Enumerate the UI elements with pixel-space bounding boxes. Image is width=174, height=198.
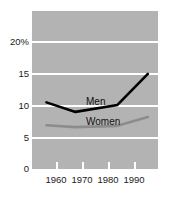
y-tick-label-10: 10	[0, 101, 29, 111]
y-axis: 20% 15 10 5 0	[0, 0, 29, 198]
y-tick-label-0: 0	[0, 164, 29, 174]
x-tick-label-1990: 1990	[114, 174, 154, 185]
y-tick-label-5: 5	[0, 133, 29, 143]
plot-area	[32, 11, 158, 169]
series-plot	[32, 11, 158, 169]
series-label-men: Men	[86, 96, 105, 107]
chart-container: 20% 15 10 5 0 Men Women 1960 1970 1980 1…	[0, 0, 174, 198]
y-tick-label-20: 20%	[0, 37, 29, 47]
y-tick-label-15: 15	[0, 69, 29, 79]
series-label-women: Women	[86, 116, 120, 127]
